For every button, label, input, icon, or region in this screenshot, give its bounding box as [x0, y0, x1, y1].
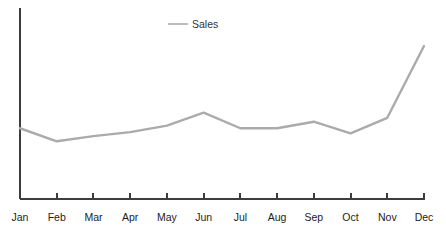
x-axis-label-feb: Feb: [48, 211, 66, 223]
legend-label-sales: Sales: [192, 18, 218, 30]
x-axis-label-dec: Dec: [415, 211, 434, 223]
x-axis-label-may: May: [157, 211, 178, 223]
x-axis-label-nov: Nov: [378, 211, 397, 223]
chart-background: [0, 0, 446, 239]
x-axis-label-oct: Oct: [342, 211, 358, 223]
x-axis-label-jul: Jul: [234, 211, 247, 223]
x-axis-label-mar: Mar: [84, 211, 103, 223]
x-axis-label-jun: Jun: [195, 211, 212, 223]
chart-canvas: JanFebMarAprMayJunJulAugSepOctNovDec Sal…: [0, 0, 446, 239]
x-axis-label-apr: Apr: [122, 211, 139, 223]
x-axis-label-aug: Aug: [268, 211, 287, 223]
x-axis-label-sep: Sep: [304, 211, 323, 223]
sales-line-chart: JanFebMarAprMayJunJulAugSepOctNovDec Sal…: [0, 0, 446, 239]
x-axis-label-jan: Jan: [12, 211, 29, 223]
